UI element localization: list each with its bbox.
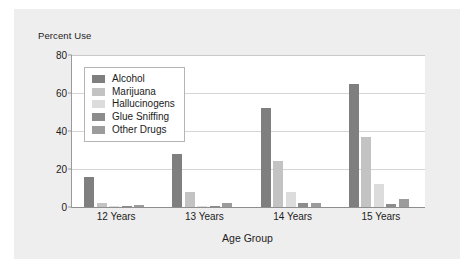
x-axis-tick-label: 13 Years <box>185 211 224 222</box>
plot-area: 020406080 12 Years13 Years14 Years15 Yea… <box>71 55 425 208</box>
legend-item-label: Glue Sniffing <box>112 112 169 122</box>
bar <box>298 203 308 207</box>
bar <box>197 206 207 207</box>
bar <box>374 184 384 207</box>
x-axis-tick-label: 14 Years <box>273 211 312 222</box>
legend-swatch-icon <box>92 113 105 121</box>
chart-legend: AlcoholMarijuanaHallucinogensGlue Sniffi… <box>84 67 185 142</box>
x-axis-tick-label: 12 Years <box>97 211 136 222</box>
legend-item-label: Hallucinogens <box>112 99 175 109</box>
bar <box>134 205 144 207</box>
bar <box>361 137 371 207</box>
legend-item-label: Alcohol <box>112 74 145 84</box>
bar <box>311 203 321 207</box>
y-axis-tick-label: 60 <box>56 88 67 99</box>
bar <box>386 204 396 207</box>
bar <box>399 199 409 207</box>
x-axis-title: Age Group <box>71 232 424 244</box>
bar <box>261 108 271 207</box>
bar <box>185 192 195 207</box>
legend-swatch-icon <box>92 100 105 108</box>
bar <box>97 203 107 207</box>
bar <box>122 206 132 207</box>
legend-swatch-icon <box>92 88 105 96</box>
legend-item: Alcohol <box>92 73 175 86</box>
bar <box>84 177 94 207</box>
bar <box>172 154 182 207</box>
legend-swatch-icon <box>92 75 105 83</box>
bar <box>273 161 283 207</box>
bar <box>286 192 296 207</box>
y-axis-tick-label: 40 <box>56 126 67 137</box>
y-axis-tick-label: 80 <box>56 50 67 61</box>
legend-item: Glue Sniffing <box>92 111 175 124</box>
legend-item: Marijuana <box>92 86 175 99</box>
legend-item: Hallucinogens <box>92 98 175 111</box>
bar <box>222 203 232 207</box>
bar <box>210 206 220 207</box>
legend-swatch-icon <box>92 126 105 134</box>
y-axis-tick-label: 0 <box>61 202 67 213</box>
x-axis-tick-label: 15 Years <box>361 211 400 222</box>
bar <box>109 206 119 207</box>
legend-item-label: Other Drugs <box>112 125 166 135</box>
bar <box>349 84 359 208</box>
legend-item-label: Marijuana <box>112 87 156 97</box>
chart-figure: Percent Use 020406080 12 Years13 Years14… <box>14 9 460 259</box>
y-axis-title: Percent Use <box>38 30 91 41</box>
y-axis-tick-label: 20 <box>56 164 67 175</box>
legend-item: Other Drugs <box>92 123 175 136</box>
